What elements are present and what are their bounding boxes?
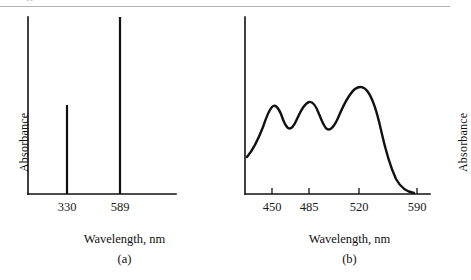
panel-b: 450 485 520 590 Absorbance Wavelength, n… [225, 0, 450, 280]
x-tick-label-450: 450 [263, 200, 282, 214]
x-axis-label-a: Wavelength, nm [0, 232, 237, 247]
absorption-band-plot-b: 450 485 520 590 [225, 0, 450, 225]
panel-caption-a: (a) [0, 252, 237, 267]
x-tick-label-590: 590 [408, 200, 427, 214]
y-axis-label-b: Absorbance [456, 113, 471, 172]
x-tick-label-485: 485 [300, 200, 319, 214]
x-tick-label-520: 520 [350, 200, 369, 214]
x-axis-label-b: Wavelength, nm [225, 232, 462, 247]
x-tick-label-330: 330 [58, 200, 77, 214]
x-tick-label-589: 589 [111, 200, 130, 214]
line-spectrum-plot-a: 330 589 [0, 0, 225, 225]
y-axis-label-a: Absorbance [17, 113, 32, 172]
panel-caption-b: (b) [225, 252, 462, 267]
panel-a: 330 589 Absorbance Wavelength, nm (a) [0, 0, 225, 280]
absorption-curve [247, 87, 414, 193]
